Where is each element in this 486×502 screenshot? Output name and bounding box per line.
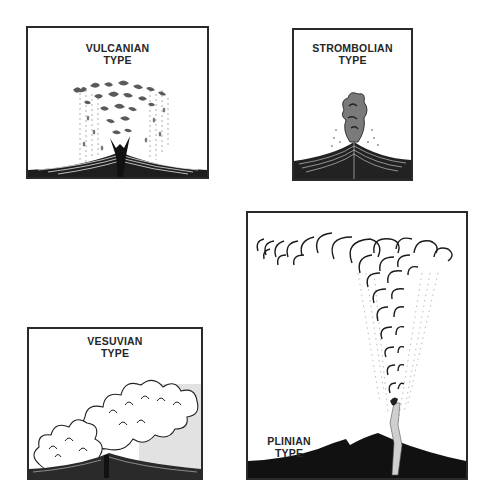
panel-vesuvian: VESUVIAN TYPE <box>27 327 203 480</box>
vesuvian-subtitle: TYPE <box>29 347 201 359</box>
strombolian-subtitle: TYPE <box>294 54 411 66</box>
strombolian-label: STROMBOLIAN TYPE <box>294 42 411 66</box>
plinian-title: PLINIAN <box>254 435 324 447</box>
panel-strombolian: STROMBOLIAN TYPE <box>292 28 413 181</box>
vulcanian-label: VULCANIAN TYPE <box>28 42 207 66</box>
panel-vulcanian: VULCANIAN TYPE <box>26 26 209 179</box>
plinian-label: PLINIAN TYPE <box>254 435 324 459</box>
plinian-subtitle: TYPE <box>254 447 324 459</box>
vesuvian-title: VESUVIAN <box>29 335 201 347</box>
vulcanian-title: VULCANIAN <box>28 42 207 54</box>
vesuvian-label: VESUVIAN TYPE <box>29 335 201 359</box>
panel-plinian: PLINIAN TYPE <box>246 211 468 480</box>
strombolian-title: STROMBOLIAN <box>294 42 411 54</box>
vulcanian-subtitle: TYPE <box>28 54 207 66</box>
